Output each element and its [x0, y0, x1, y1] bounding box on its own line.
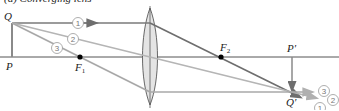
ray-1-label: 1: [73, 18, 84, 29]
svg-text:2: 2: [331, 96, 336, 105]
ray-1-end-label: 1: [315, 103, 326, 111]
svg-text:1: 1: [318, 104, 323, 110]
svg-text:1: 1: [76, 19, 81, 28]
svg-text:2: 2: [71, 35, 76, 44]
ray-2-label: 2: [68, 34, 79, 45]
svg-text:3: 3: [322, 87, 327, 96]
ray-3-end-label: 3: [319, 86, 330, 97]
ray-2-end-label: 2: [328, 95, 339, 106]
label-p: P: [5, 60, 13, 72]
label-q: Q: [4, 10, 12, 22]
label-f2: F2: [219, 41, 231, 55]
figure-title: (a) Converging lens: [4, 0, 92, 5]
ray-2: [12, 23, 316, 98]
label-f1: F1: [74, 61, 86, 75]
label-q-prime: Q′: [286, 96, 297, 108]
ray-3-label: 3: [52, 43, 63, 54]
focal-point-f2: [218, 54, 223, 59]
converging-lens-diagram: (a) Converging lens 1 2 3 3: [0, 0, 339, 110]
svg-text:3: 3: [55, 44, 60, 53]
label-p-prime: P′: [286, 42, 297, 54]
focal-point-f1: [77, 54, 82, 59]
